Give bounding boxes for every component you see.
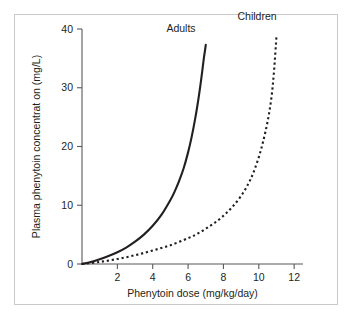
data-series-group bbox=[82, 36, 276, 264]
y-axis-ticks bbox=[77, 29, 82, 264]
series-label-children: Children bbox=[237, 10, 276, 22]
x-tick-label: 8 bbox=[221, 271, 227, 283]
x-axis-title: Phenytoin dose (mg/kg/day) bbox=[127, 287, 258, 299]
series-label-adults: Adults bbox=[166, 22, 195, 34]
y-tick-label: 0 bbox=[67, 258, 73, 270]
y-tick-label: 40 bbox=[61, 23, 73, 35]
figure-container: 24681012 010203040 Adults Children Pheny… bbox=[0, 0, 352, 320]
y-axis-tick-labels: 010203040 bbox=[61, 23, 73, 270]
y-tick-label: 30 bbox=[61, 81, 73, 93]
x-tick-label: 2 bbox=[114, 271, 120, 283]
axes-group bbox=[82, 29, 303, 264]
y-axis-title: Plasma phenytoin concentrat on (mg/L) bbox=[30, 55, 42, 238]
series-line-adults bbox=[82, 45, 206, 264]
x-axis-ticks bbox=[117, 264, 294, 269]
y-tick-label: 20 bbox=[61, 140, 73, 152]
x-axis-tick-labels: 24681012 bbox=[114, 271, 300, 283]
x-tick-label: 6 bbox=[185, 271, 191, 283]
y-tick-label: 10 bbox=[61, 199, 73, 211]
series-line-children bbox=[82, 36, 276, 264]
phenytoin-dose-concentration-chart: 24681012 010203040 Adults Children Pheny… bbox=[0, 0, 352, 320]
x-tick-label: 4 bbox=[150, 271, 156, 283]
x-tick-label: 10 bbox=[253, 271, 265, 283]
x-tick-label: 12 bbox=[288, 271, 300, 283]
